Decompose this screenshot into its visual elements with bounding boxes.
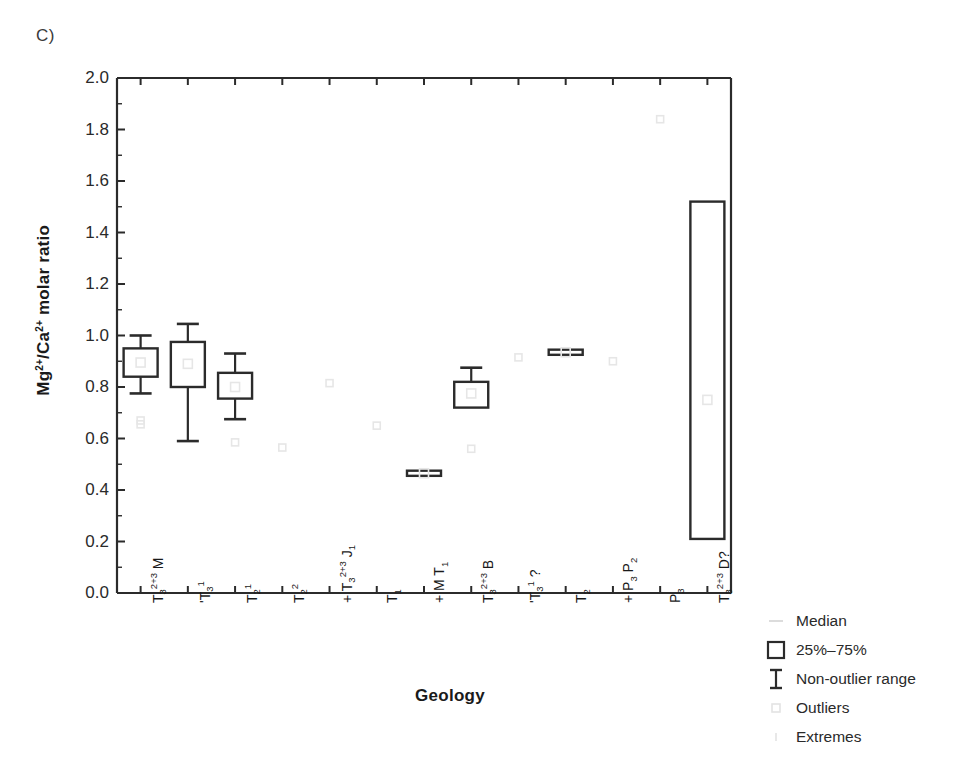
legend-item: Extremes [762,722,916,751]
x-tick-label: T32+3 D? [714,551,734,603]
outlier-square-icon [762,701,790,715]
outlier-marker [468,445,475,452]
x-tick-label: 'T31 ? [525,569,545,603]
y-tick-label: 1.2 [65,274,109,294]
y-tick-label: 0.6 [65,429,109,449]
y-tick-label: 0.2 [65,532,109,552]
y-tick-label: 0.8 [65,377,109,397]
legend-label: Median [796,612,847,630]
box-iqr [218,373,252,399]
x-tick-label: + P3 P2 [620,558,639,603]
legend-item: Non-outlier range [762,664,916,693]
box-iqr [690,202,724,539]
box-group [218,354,252,446]
x-tick-label: T2 [573,589,592,603]
y-tick-label: 1.0 [65,326,109,346]
outlier-marker [657,116,664,123]
axes [117,78,731,593]
whisker-bar-icon [762,667,790,691]
x-tick-label: 'T31 [195,581,215,603]
y-tick-label: 2.0 [65,68,109,88]
legend-item: 25%–75% [762,635,916,664]
box-iqr [124,348,158,376]
x-tick-label: + T32+3 J1 [337,545,357,603]
box-group [515,354,522,361]
box-group [454,368,488,453]
y-tick-label: 1.6 [65,171,109,191]
legend-item: Median [762,606,916,635]
extreme-tick-icon [762,730,790,744]
box-rect-icon [762,640,790,660]
x-tick-label: T1 [384,589,403,603]
x-tick-label: T21 [242,584,262,603]
outlier-marker [326,380,333,387]
data-series [124,116,725,539]
legend: Median25%–75%Non-outlier rangeOutliersEx… [762,606,916,751]
legend-label: Non-outlier range [796,670,916,688]
box-iqr [454,382,488,408]
x-tick-label: P3 [667,588,686,603]
y-tick-label: 0.0 [65,583,109,603]
box-iqr [407,471,441,476]
box-group [124,336,158,428]
y-tick-label: 1.4 [65,223,109,243]
outlier-marker [515,354,522,361]
x-tick-label: T32+3 M [148,557,168,603]
outlier-marker [279,444,286,451]
box-group [407,469,441,478]
box-group [549,348,583,357]
outlier-marker [609,358,616,365]
box-iqr [549,350,583,355]
x-tick-label: T22 [289,584,309,603]
box-group [326,380,333,387]
figure-container: C) Mg2+/Ca2+ molar ratio Geology 0.00.20… [0,0,953,764]
legend-label: 25%–75% [796,641,867,659]
x-tick-label: + M T1 [431,562,450,603]
box-group [690,202,724,539]
legend-label: Outliers [796,699,849,717]
box-iqr [171,342,205,387]
legend-label: Extremes [796,728,861,746]
y-tick-label: 0.4 [65,480,109,500]
legend-item: Outliers [762,693,916,722]
x-tick-label: T32+3 B [478,560,498,603]
box-group [373,422,380,429]
outlier-marker [232,439,239,446]
outlier-marker [373,422,380,429]
box-group [279,444,286,451]
box-group [171,324,205,441]
median-dash-icon [762,614,790,628]
y-tick-label: 1.8 [65,120,109,140]
box-group [609,358,616,365]
box-group [657,116,664,123]
